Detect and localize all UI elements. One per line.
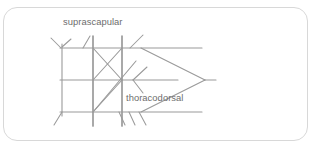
figure-card: [3, 7, 308, 141]
label-thoracodorsal: thoracodorsal: [126, 92, 183, 103]
label-suprascapular: suprascapular: [63, 16, 123, 27]
brachial-plexus-figure: suprascapular thoracodorsal: [0, 0, 327, 155]
